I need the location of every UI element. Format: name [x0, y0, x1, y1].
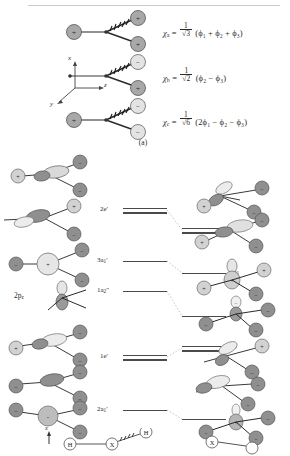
label-1a2-dprime: 1a2″: [97, 286, 109, 294]
chi-b-coefficient: 1 √2: [180, 67, 192, 83]
chi-b-denominator: √2: [180, 75, 192, 83]
legend-skeletons: x H X H X: [0, 424, 286, 452]
panel-a-caption: (a): [0, 138, 286, 147]
chi-b-subscript: b: [167, 77, 170, 83]
svg-text:H: H: [144, 429, 149, 436]
chi-a-expression: (ϕ₁ + ϕ₂ + ϕ₃): [195, 28, 242, 38]
orbital-cartoon-chi-b: − +: [60, 56, 156, 94]
axis-label-y: y: [50, 100, 53, 108]
orbital-cartoon-2pz: [36, 283, 76, 311]
legend-axis-arrow-icon: [44, 431, 56, 445]
orbital-cartoon-2e-b: − − +: [196, 210, 286, 254]
formula-chi-a: χa = 1 √3 (ϕ₁ + ϕ₂ + ϕ₃): [163, 22, 243, 38]
label-1e-prime: 1e′: [100, 352, 108, 360]
svg-text:−: −: [235, 301, 238, 306]
svg-text:+: +: [136, 15, 140, 23]
svg-text:−: −: [136, 129, 140, 137]
chi-c-coefficient: 1 √6: [180, 111, 192, 127]
svg-text:−: −: [136, 103, 140, 111]
svg-text:+: +: [136, 85, 140, 93]
orbital-cartoon-chi-c: + − −: [60, 100, 156, 138]
orbital-cartoon-2e-prime-b: + −: [4, 196, 100, 240]
svg-text:+: +: [72, 29, 76, 37]
svg-text:X: X: [210, 439, 215, 446]
svg-text:+: +: [72, 117, 76, 125]
mo-correlation-diagram: 2e′ 3a1′ 1a2″ 1e′ 2a1′ 2e 4a1 3a1 1e 2a1…: [0, 148, 286, 428]
top-divider-rule: [28, 5, 280, 6]
equals-sign-c: =: [172, 117, 177, 127]
orbital-cartoon-chi-a: + + +: [60, 12, 156, 50]
svg-text:X: X: [110, 441, 115, 448]
orbital-cartoon-2e-prime-a: + − −: [4, 154, 100, 198]
chi-c-denominator: √6: [180, 119, 192, 127]
level-2e-prime-left[interactable]: [123, 210, 167, 211]
chi-c-expression: (2ϕ₁ − ϕ₂ − ϕ₃): [195, 117, 247, 127]
formula-chi-c: χc = 1 √6 (2ϕ₁ − ϕ₂ − ϕ₃): [163, 111, 247, 127]
svg-text:+: +: [136, 41, 140, 49]
level-1e-prime-left[interactable]: [123, 357, 167, 358]
label-2pz-orbital: 2pz: [14, 291, 24, 300]
chi-a-coefficient: 1 √3: [180, 22, 192, 38]
orbital-cartoon-3a1: − − − −: [196, 294, 286, 338]
chi-a-subscript: a: [167, 32, 170, 38]
formula-chi-b: χb = 1 √2 (ϕ₂ − ϕ₃): [163, 67, 226, 83]
label-2e-prime: 2e′: [100, 205, 108, 213]
level-2a1-prime-left[interactable]: [123, 410, 167, 411]
level-3a1-prime-left[interactable]: [123, 261, 167, 262]
chi-a-denominator: √3: [180, 30, 192, 38]
legend-planar-skeleton: H X H: [58, 428, 178, 454]
equals-sign: =: [172, 28, 177, 38]
legend-pyramidal-skeleton: X: [200, 430, 290, 456]
chi-b-expression: (ϕ₂ − ϕ₃): [196, 73, 226, 83]
orbital-cartoon-1e-prime-a: + − −: [4, 324, 100, 366]
svg-text:−: −: [136, 59, 140, 67]
svg-text:H: H: [68, 441, 73, 448]
equals-sign-b: =: [172, 73, 177, 83]
chi-c-subscript: c: [167, 121, 170, 127]
legend-axis-label-x: x: [45, 424, 48, 431]
panel-a: + + + χa = 1 √3 (ϕ₁ + ϕ₂ + ϕ₃): [0, 8, 286, 148]
level-1a2-dprime-left[interactable]: [123, 291, 167, 292]
